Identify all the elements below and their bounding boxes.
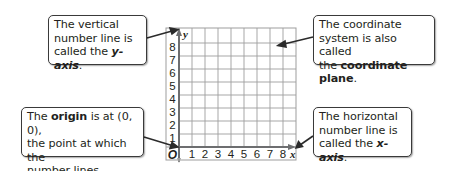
- svg-text:5: 5: [241, 148, 247, 160]
- y-axis-label: y: [181, 28, 188, 40]
- origin-label: O: [168, 148, 178, 162]
- svg-text:2: 2: [202, 148, 208, 160]
- svg-text:8: 8: [280, 148, 286, 160]
- callout-y-axis: The vertical number line is called the y…: [48, 15, 147, 65]
- y-tick-labels: 1 2 3 4 5 6 7 8: [169, 41, 176, 144]
- callout-line: number line is: [319, 124, 407, 138]
- callout-line: number line is: [54, 32, 142, 46]
- svg-text:7: 7: [267, 148, 273, 160]
- arrowhead-icon: [296, 142, 303, 149]
- svg-text:4: 4: [169, 93, 176, 105]
- svg-text:4: 4: [228, 148, 235, 160]
- svg-text:5: 5: [169, 80, 175, 92]
- callout-line: the point at which the: [27, 137, 139, 164]
- callout-line: the coordinate plane.: [319, 59, 430, 86]
- callout-origin: The origin is at (0, 0), the point at wh…: [21, 107, 144, 157]
- svg-text:6: 6: [169, 67, 175, 79]
- svg-text:3: 3: [215, 148, 221, 160]
- callout-line: system is also called: [319, 32, 430, 59]
- term-origin: origin: [51, 110, 87, 123]
- svg-text:2: 2: [169, 119, 175, 131]
- svg-text:6: 6: [254, 148, 260, 160]
- svg-text:8: 8: [169, 41, 175, 53]
- callout-x-axis: The horizontal number line is called the…: [313, 107, 412, 157]
- callout-line: The origin is at (0, 0),: [27, 110, 139, 137]
- svg-text:7: 7: [169, 54, 175, 66]
- callout-line: number lines intersect.: [27, 164, 139, 171]
- svg-text:3: 3: [169, 106, 175, 118]
- x-axis-label: x: [289, 148, 296, 160]
- callout-line: The horizontal: [319, 110, 407, 124]
- callout-line: The vertical: [54, 18, 142, 32]
- callout-line: The coordinate: [319, 18, 430, 32]
- svg-text:1: 1: [189, 148, 195, 160]
- callout-line: called the y-axis.: [54, 45, 142, 72]
- callout-line: called the x-axis.: [319, 137, 407, 164]
- callout-coordinate-plane: The coordinate system is also called the…: [313, 15, 435, 65]
